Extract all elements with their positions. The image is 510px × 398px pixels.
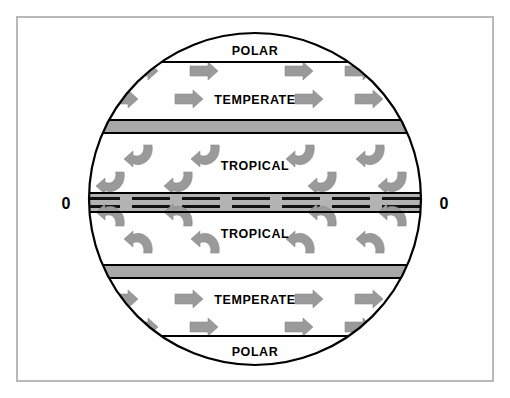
- label-tropical-north: TROPICAL: [221, 159, 290, 173]
- globe-body: [0, 0, 435, 373]
- band-subtropical-south: [75, 265, 435, 278]
- label-polar-south: POLAR: [232, 345, 279, 359]
- band-subtropical-north: [75, 120, 435, 133]
- equator-label-right: 0: [440, 195, 449, 212]
- label-temperate-north: TEMPERATE: [214, 93, 296, 107]
- label-temperate-south: TEMPERATE: [214, 293, 296, 307]
- circulation-diagram: POLAR TEMPERATE TROPICAL TROPICAL TEMPER…: [0, 0, 510, 398]
- label-tropical-south: TROPICAL: [221, 227, 290, 241]
- figure-page: POLAR TEMPERATE TROPICAL TROPICAL TEMPER…: [0, 0, 510, 398]
- label-polar-north: POLAR: [232, 44, 279, 58]
- equator-label-left: 0: [62, 195, 71, 212]
